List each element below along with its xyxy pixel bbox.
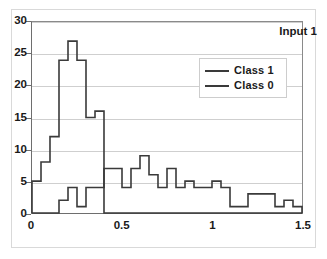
legend-label: Class 1: [234, 65, 274, 76]
legend-line-icon: [205, 85, 229, 87]
chart-title: Input 1: [279, 26, 317, 38]
chart-figure: 051015202530 00.511.5 Input 1 Class 1 Cl…: [0, 0, 327, 259]
y-axis-tick-label: 20: [3, 79, 27, 91]
legend-item-class-1: Class 1: [205, 63, 281, 78]
x-axis-tick-label: 0: [28, 220, 34, 232]
chart-legend: Class 1 Class 0: [199, 58, 287, 98]
legend-line-icon: [205, 70, 229, 72]
series-layer: [32, 22, 302, 213]
y-axis-tick-label: 0: [3, 208, 27, 220]
series-line-class-0: [32, 156, 302, 213]
x-axis-tick-label: 1.5: [295, 220, 311, 232]
y-axis-tick-label: 25: [3, 47, 27, 59]
x-axis-tick-label: 0.5: [114, 220, 130, 232]
plot-area: [31, 21, 303, 214]
legend-label: Class 0: [234, 80, 274, 91]
y-axis-labels: 051015202530: [0, 21, 27, 214]
x-axis-tick-label: 1: [209, 220, 215, 232]
y-axis-tick-label: 5: [3, 176, 27, 188]
legend-item-class-0: Class 0: [205, 78, 281, 93]
x-axis-labels: 00.511.5: [31, 220, 303, 242]
y-axis-tick-label: 10: [3, 144, 27, 156]
y-axis-tick-label: 15: [3, 112, 27, 124]
y-axis-tick-label: 30: [3, 15, 27, 27]
